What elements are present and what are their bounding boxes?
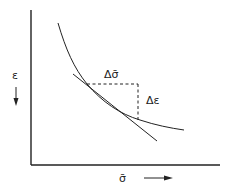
delta-sigma-label: Δσ̄ xyxy=(104,68,119,81)
sigma-axis-label: σ̄ xyxy=(119,172,126,185)
diagram-canvas: Δσ̄ Δε ε σ̄ xyxy=(0,0,232,196)
delta-epsilon-label: Δε xyxy=(146,94,160,107)
right-arrow-icon xyxy=(144,176,173,181)
down-arrow-icon xyxy=(14,87,19,106)
epsilon-axis-label: ε xyxy=(12,69,18,82)
